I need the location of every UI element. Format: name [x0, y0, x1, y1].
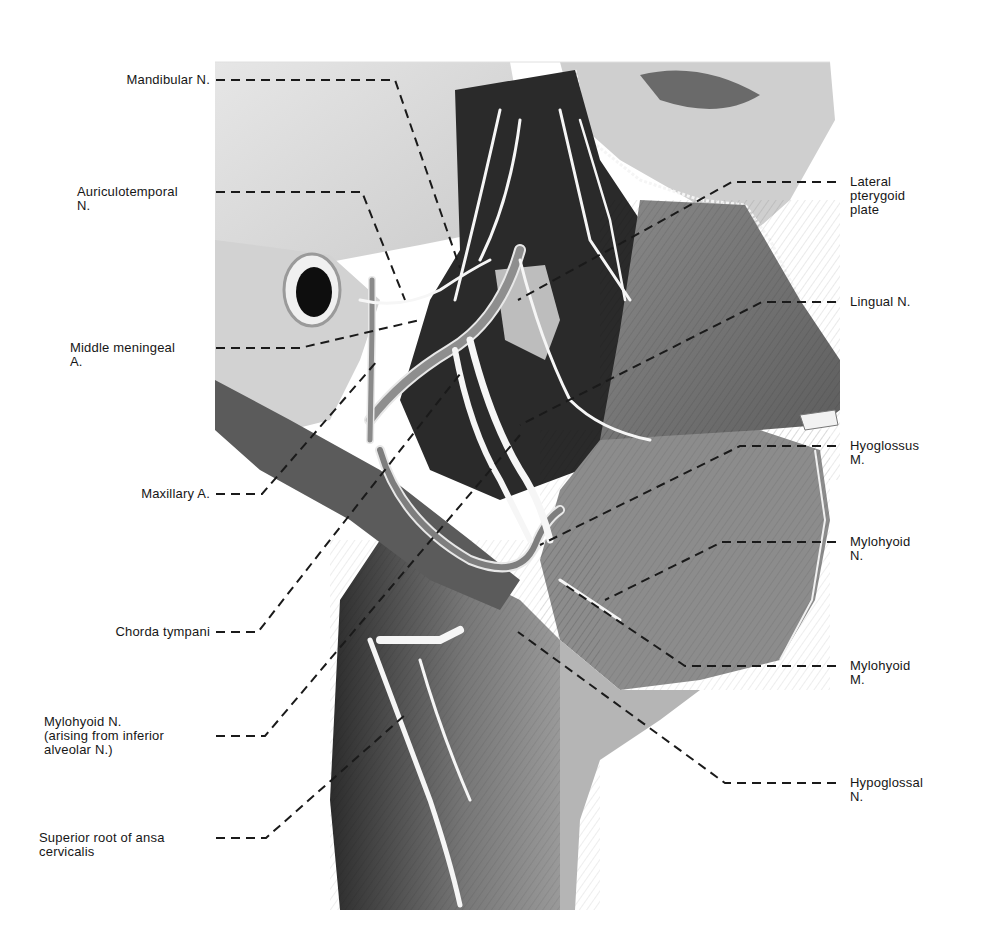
leader-hypoglossal-n — [518, 632, 836, 783]
label-mylohyoid-n-left: Mylohyoid N. (arising from inferior alve… — [44, 715, 214, 757]
label-hypoglossal-n: Hypoglossal N. — [850, 776, 923, 804]
label-maxillary-a: Maxillary A. — [60, 487, 210, 501]
label-mylohyoid-m: Mylohyoid M. — [850, 659, 910, 687]
label-chorda-tympani: Chorda tympani — [40, 625, 210, 639]
leader-lines — [0, 0, 992, 952]
leader-hyoglossus-m — [540, 446, 836, 545]
leader-mandibular-n — [216, 80, 460, 268]
label-lingual-n: Lingual N. — [850, 295, 911, 309]
anatomy-figure: Mandibular N. Auriculotemporal N. Middle… — [0, 0, 992, 952]
label-superior-root-ansa: Superior root of ansa cervicalis — [39, 831, 209, 859]
label-mandibular-n: Mandibular N. — [60, 73, 210, 87]
leader-mylohyoid-n-right — [605, 542, 836, 600]
leader-chorda-tympani — [216, 374, 460, 632]
leader-mylohyoid-n-left — [216, 435, 520, 736]
label-middle-meningeal-a: Middle meningeal A. — [60, 341, 210, 369]
label-mylohyoid-n-right: Mylohyoid N. — [850, 535, 910, 563]
leader-auriculotemporal-n — [216, 192, 405, 300]
label-auriculotemporal-n: Auriculotemporal N. — [60, 185, 210, 213]
leader-mylohyoid-m — [565, 585, 836, 666]
label-hyoglossus-m: Hyoglossus M. — [850, 439, 919, 467]
leader-middle-meningeal-a — [216, 320, 420, 348]
leader-superior-root-ansa — [216, 715, 405, 838]
label-lateral-pterygoid-plate: Lateral pterygoid plate — [850, 175, 905, 217]
leader-maxillary-a — [216, 360, 378, 494]
leader-lingual-n — [520, 302, 836, 425]
leader-lateral-pterygoid-plate — [518, 182, 836, 300]
